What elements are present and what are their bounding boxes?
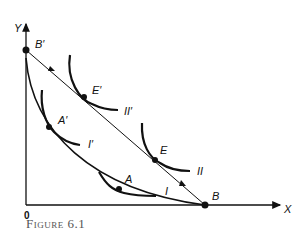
indifference-curve-II-prime xyxy=(69,55,118,110)
budget-line-arrow-lower xyxy=(179,180,186,186)
label-E: E xyxy=(160,144,168,156)
y-axis-label: Y xyxy=(14,22,22,34)
label-B: B xyxy=(212,190,219,202)
point-B-prime xyxy=(23,47,30,54)
x-axis-label: X xyxy=(283,203,292,215)
indifference-curve-diagram: Y X 0 B′ B E′ E A′ A II′ II I′ I xyxy=(0,0,298,238)
point-A xyxy=(116,186,122,192)
budget-line xyxy=(26,50,205,205)
label-B-prime: B′ xyxy=(35,38,45,50)
label-II-prime: II′ xyxy=(124,105,133,117)
point-E-prime xyxy=(81,94,87,100)
label-I: I xyxy=(165,185,168,197)
point-A-prime xyxy=(46,124,52,130)
budget-line-arrow-upper xyxy=(48,66,55,71)
point-E xyxy=(152,157,158,163)
label-A-prime: A′ xyxy=(57,114,68,126)
figure-caption: Figure 6.1 xyxy=(26,216,85,232)
label-A: A xyxy=(124,173,132,185)
label-II: II xyxy=(197,165,203,177)
point-B xyxy=(202,202,209,209)
label-I-prime: I′ xyxy=(88,138,94,150)
label-E-prime: E′ xyxy=(92,84,102,96)
